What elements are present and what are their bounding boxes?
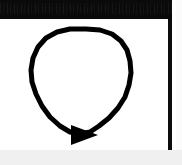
circular-arrow-figure	[0, 0, 176, 150]
bottom-page-margin	[0, 150, 182, 165]
circular-arrow-svg	[0, 0, 176, 150]
loop-path	[31, 29, 131, 134]
right-page-margin	[176, 0, 182, 152]
scanned-figure-page: illegible scanned header text	[0, 0, 182, 165]
